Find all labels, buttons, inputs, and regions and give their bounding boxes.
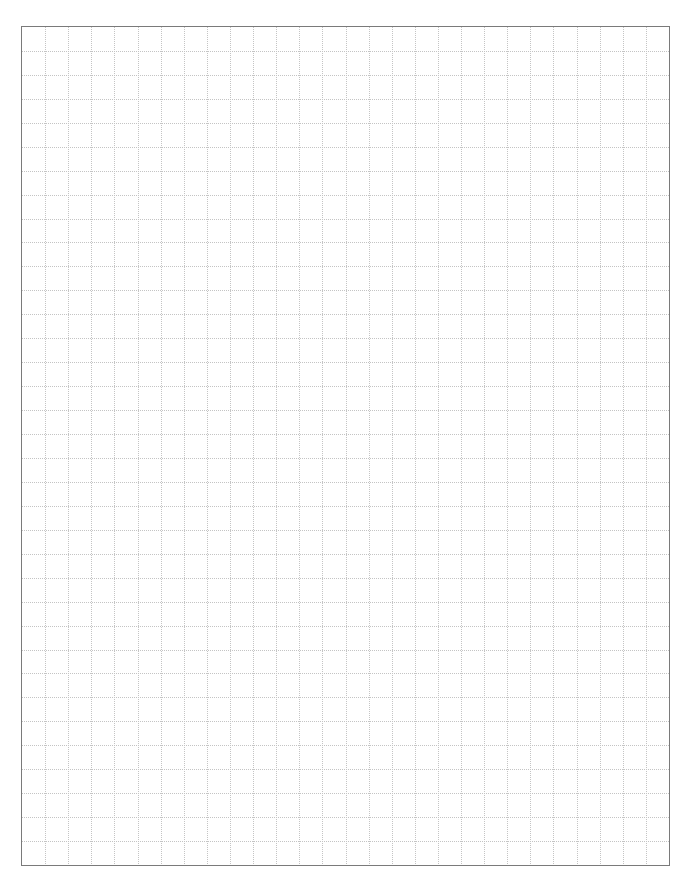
graph-paper-grid [21, 26, 670, 866]
grid-lines [22, 27, 669, 865]
